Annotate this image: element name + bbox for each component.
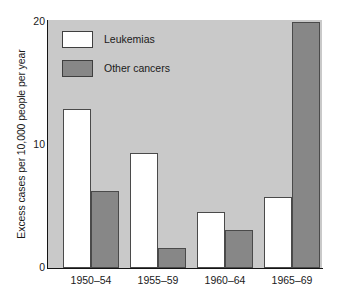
x-axis-line <box>47 268 323 269</box>
gray-swatch-icon <box>62 60 93 77</box>
bar-other-cancers-1950-54 <box>91 191 119 268</box>
x-tick-label-1955-59: 1955–59 <box>138 274 179 287</box>
y-tick-label-20: 20 <box>19 16 45 27</box>
plot-area: Leukemias Other cancers <box>48 20 322 268</box>
x-axis-tick-labels: 1950–54 1955–59 1960–64 1965–69 <box>48 274 322 290</box>
bar-leukemias-1965-69 <box>264 197 292 268</box>
bar-leukemias-1950-54 <box>63 109 91 268</box>
bar-other-cancers-1960-64 <box>225 230 253 268</box>
white-swatch-icon <box>62 31 93 48</box>
bar-other-cancers-1955-59 <box>158 248 186 268</box>
legend-item-other-cancers: Other cancers <box>62 57 232 79</box>
legend-label-leukemias: Leukemias <box>104 33 155 45</box>
bar-leukemias-1955-59 <box>130 153 158 268</box>
x-tick-label-1960-64: 1960–64 <box>205 274 246 287</box>
bar-leukemias-1960-64 <box>197 212 225 268</box>
bar-other-cancers-1965-69 <box>292 22 320 268</box>
legend-label-other-cancers: Other cancers <box>104 62 170 74</box>
bar-chart-figure: Excess cases per 10,000 people per year … <box>0 0 337 301</box>
chart-legend: Leukemias Other cancers <box>62 28 232 86</box>
y-tick-label-0: 0 <box>19 262 45 273</box>
x-tick-label-1950-54: 1950–54 <box>71 274 112 287</box>
y-axis-tick-labels: 20 10 0 <box>15 0 45 301</box>
y-tick-label-10: 10 <box>19 139 45 150</box>
legend-item-leukemias: Leukemias <box>62 28 232 50</box>
x-tick-label-1965-69: 1965–69 <box>272 274 313 287</box>
